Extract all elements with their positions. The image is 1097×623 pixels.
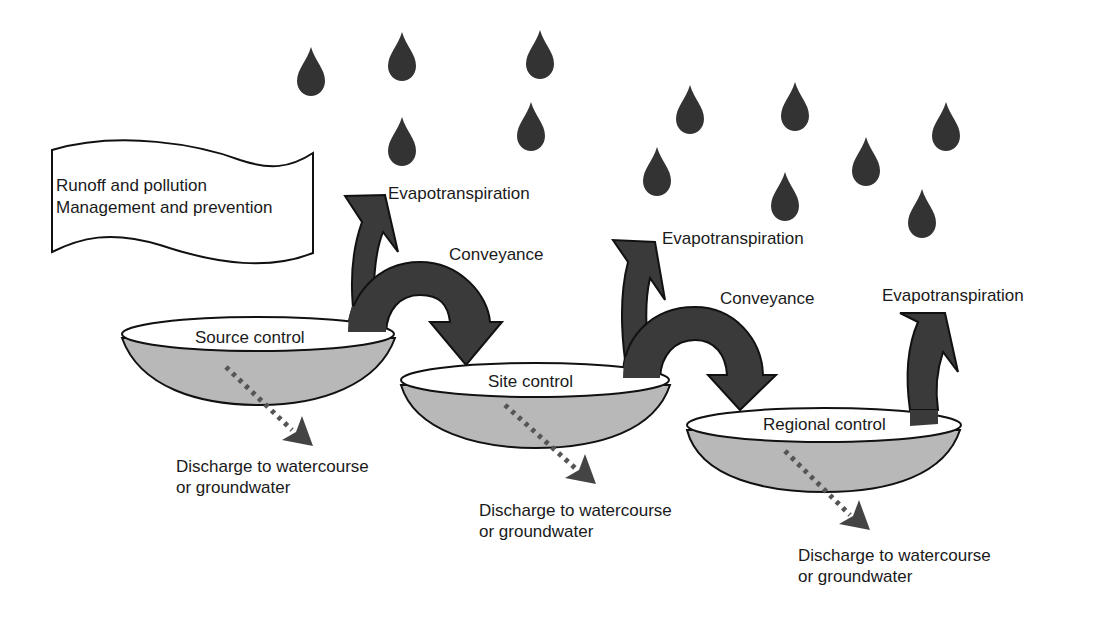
evapotranspiration-label-1: Evapotranspiration — [388, 183, 530, 204]
discharge-3-line-2: or groundwater — [798, 566, 991, 587]
banner-line-2: Management and prevention — [56, 197, 272, 219]
discharge-3-line-1: Discharge to watercourse — [798, 545, 991, 566]
basin-label-regional: Regional control — [763, 414, 886, 435]
raindrop-icon — [932, 102, 960, 151]
evapotranspiration-arrow-3 — [900, 313, 958, 410]
basin-label-source: Source control — [195, 327, 305, 348]
banner-label: Runoff and pollution Management and prev… — [56, 175, 272, 219]
discharge-1-line-1: Discharge to watercourse — [176, 456, 369, 477]
raindrops — [297, 30, 960, 238]
discharge-2-line-1: Discharge to watercourse — [479, 500, 672, 521]
raindrop-icon — [297, 47, 325, 96]
basin-site-control — [401, 356, 670, 448]
arrowhead-icon — [839, 500, 870, 530]
raindrop-icon — [781, 82, 809, 131]
raindrop-icon — [517, 102, 545, 151]
raindrop-icon — [771, 172, 799, 221]
arrowhead-icon — [565, 454, 596, 484]
discharge-label-2: Discharge to watercourse or groundwater — [479, 500, 672, 542]
conveyance-label-2: Conveyance — [720, 288, 815, 309]
raindrop-icon — [676, 85, 704, 134]
banner-line-1: Runoff and pollution — [56, 175, 272, 197]
raindrop-icon — [643, 147, 671, 196]
evapotranspiration-label-2: Evapotranspiration — [662, 228, 804, 249]
discharge-2-line-2: or groundwater — [479, 521, 672, 542]
arrowhead-icon — [282, 416, 313, 446]
raindrop-icon — [908, 189, 936, 238]
conveyance-label-1: Conveyance — [449, 244, 544, 265]
discharge-1-line-2: or groundwater — [176, 477, 369, 498]
raindrop-icon — [852, 137, 880, 186]
raindrop-icon — [388, 117, 416, 166]
evapotranspiration-label-3: Evapotranspiration — [882, 285, 1024, 306]
discharge-label-1: Discharge to watercourse or groundwater — [176, 456, 369, 498]
basin-label-site: Site control — [488, 371, 573, 392]
raindrop-icon — [526, 30, 554, 79]
discharge-label-3: Discharge to watercourse or groundwater — [798, 545, 991, 587]
raindrop-icon — [388, 32, 416, 81]
basin-source-control — [122, 306, 395, 405]
